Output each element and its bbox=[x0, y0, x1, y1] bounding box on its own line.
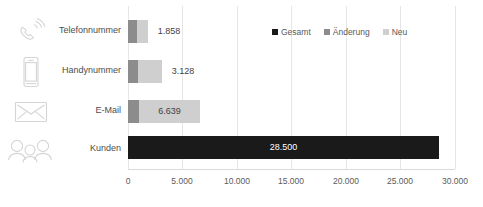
chart-row-email: E-Mail 6.639 bbox=[0, 92, 483, 132]
chart-row-kunden: Kunden 28.500 bbox=[0, 130, 483, 170]
bar-value-handynummer: 3.128 bbox=[162, 60, 204, 83]
bar-segment-neu bbox=[137, 20, 148, 43]
xtick-label-5000: 5.000 bbox=[157, 176, 207, 186]
bar-segment-neu bbox=[138, 60, 162, 83]
stacked-bar-handynummer[interactable] bbox=[128, 60, 162, 83]
stacked-bar-telefonnummer[interactable] bbox=[128, 20, 148, 43]
bar-segment-aenderung bbox=[128, 60, 138, 83]
xtick-label-30000: 30.000 bbox=[430, 176, 480, 186]
row-label-handynummer: Handynummer bbox=[0, 63, 121, 77]
bar-chart: Gesamt Änderung Neu Telefonnummer bbox=[0, 0, 483, 207]
bar-segment-aenderung bbox=[128, 100, 139, 123]
xtick-label-20000: 20.000 bbox=[321, 176, 371, 186]
xtick-label-15000: 15.000 bbox=[266, 176, 316, 186]
xtick-label-25000: 25.000 bbox=[375, 176, 425, 186]
chart-row-telefonnummer: Telefonnummer 1.858 bbox=[0, 12, 483, 52]
chart-row-handynummer: Handynummer 3.128 bbox=[0, 52, 483, 92]
xtick-label-0: 0 bbox=[103, 176, 153, 186]
bar-segment-aenderung bbox=[128, 20, 137, 43]
row-label-email: E-Mail bbox=[0, 103, 121, 117]
bar-value-telefonnummer: 1.858 bbox=[148, 20, 190, 43]
row-label-telefonnummer: Telefonnummer bbox=[0, 23, 121, 37]
row-label-kunden: Kunden bbox=[0, 141, 121, 155]
xtick-label-10000: 10.000 bbox=[212, 176, 262, 186]
bar-value-kunden: 28.500 bbox=[128, 136, 439, 159]
bar-value-email: 6.639 bbox=[139, 100, 200, 123]
